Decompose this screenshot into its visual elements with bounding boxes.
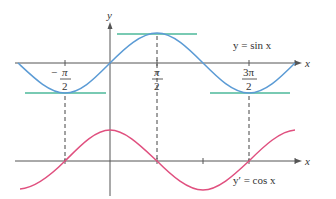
tick-neg-pi-den: 2 <box>62 80 68 92</box>
tick-pi-den: 2 <box>154 80 160 92</box>
tick-neg-sign: − <box>51 66 57 78</box>
tick-3pi-num: 3π <box>243 66 255 78</box>
tick-3pi-den: 2 <box>246 80 252 92</box>
sin-curve-label: y = sin x <box>233 39 272 51</box>
top-x-axis-label: x <box>304 57 310 69</box>
dashed-guides <box>65 36 249 161</box>
bottom-x-axis-arrow-icon <box>295 159 302 164</box>
top-x-axis-arrow-icon <box>295 61 302 66</box>
y-axis-arrow-icon <box>108 22 113 29</box>
bottom-x-axis-label: x <box>304 155 310 167</box>
y-axis-label: y <box>106 9 112 21</box>
sine-derivative-diagram: y x − π 2 π 2 3π 2 <box>0 0 336 199</box>
cos-curve-label: y′ = cos x <box>233 174 276 186</box>
tick-neg-pi-num: π <box>62 66 68 78</box>
tick-pi-num: π <box>154 66 160 78</box>
